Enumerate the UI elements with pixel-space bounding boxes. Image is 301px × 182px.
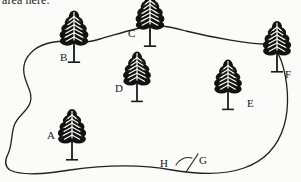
tree-e [214,60,242,111]
tree-label-d: D [115,83,123,94]
tree-a [58,109,86,161]
bottom-angle-marker [176,154,198,172]
tree-label-e: E [247,98,254,109]
tree-label-b: B [60,52,67,63]
tree-label-f: F [285,69,291,80]
point-label-h: H [160,158,168,169]
tree-label-c: C [128,28,135,39]
tree-c [136,0,165,47]
tree-f [263,21,291,73]
survey-plot-figure [0,0,301,182]
diagram-canvas: area here. [0,0,301,182]
property-boundary-path [6,26,288,174]
angle-ray-line [186,154,198,172]
tree-d [123,52,151,103]
tree-label-a: A [47,130,55,141]
angle-arc [176,158,192,165]
point-label-g: G [199,155,207,166]
